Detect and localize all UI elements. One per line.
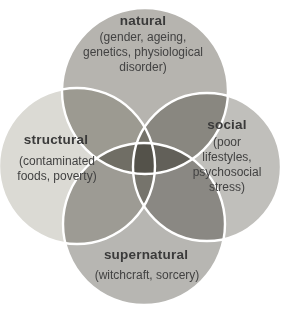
- social-description-line: stress): [193, 180, 262, 195]
- structural-label: structural: [24, 132, 88, 147]
- natural-description-line: disorder): [83, 60, 203, 75]
- social-description-line: (poor: [193, 135, 262, 150]
- structural-description-line: foods, poverty): [17, 169, 96, 184]
- structural-description-line: (contaminated: [17, 154, 96, 169]
- supernatural-description-line: (witchcraft, sorcery): [95, 268, 200, 283]
- natural-description: (gender, ageing, genetics, physiological…: [83, 30, 203, 75]
- structural-description: (contaminated foods, poverty): [17, 154, 96, 184]
- natural-description-line: (gender, ageing,: [83, 30, 203, 45]
- venn-diagram: natural (gender, ageing, genetics, physi…: [0, 0, 282, 309]
- supernatural-label: supernatural: [104, 247, 188, 262]
- natural-label: natural: [120, 13, 166, 28]
- social-description: (poor lifestyles, psychosocial stress): [193, 135, 262, 195]
- social-description-line: psychosocial: [193, 165, 262, 180]
- supernatural-description: (witchcraft, sorcery): [95, 268, 200, 283]
- social-description-line: lifestyles,: [193, 150, 262, 165]
- social-label: social: [207, 117, 246, 132]
- natural-description-line: genetics, physiological: [83, 45, 203, 60]
